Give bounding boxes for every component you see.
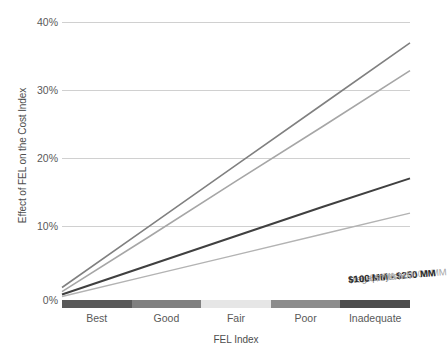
y-axis-tick-labels: 40% 30% 20% 10% 0% xyxy=(14,0,58,356)
series-line-250mm-500mm xyxy=(62,71,410,292)
x-axis-tick-labels: Best Good Fair Poor Inadequate xyxy=(62,311,410,327)
x-tick-poor: Poor xyxy=(271,311,341,327)
fel-index-quality-strip xyxy=(62,300,410,308)
x-tick-inadequate: Inadequate xyxy=(340,311,410,327)
strip-segment-inadequate xyxy=(340,300,410,308)
y-tick-40: 40% xyxy=(14,17,58,28)
strip-segment-good xyxy=(132,300,202,308)
plot-area: Megaprojects $250 MM - $500 MM $100 MM -… xyxy=(62,22,410,300)
y-tick-0: 0% xyxy=(14,295,58,306)
strip-segment-best xyxy=(62,300,132,308)
y-tick-10: 10% xyxy=(14,221,58,232)
series-line-megaprojects xyxy=(62,43,410,288)
x-axis-title: FEL Index xyxy=(62,334,410,345)
strip-segment-poor xyxy=(271,300,341,308)
strip-segment-fair xyxy=(201,300,271,308)
series-lines xyxy=(62,22,410,300)
y-tick-20: 20% xyxy=(14,153,58,164)
x-tick-fair: Fair xyxy=(201,311,271,327)
y-tick-30: 30% xyxy=(14,85,58,96)
x-tick-best: Best xyxy=(62,311,132,327)
x-tick-good: Good xyxy=(132,311,202,327)
